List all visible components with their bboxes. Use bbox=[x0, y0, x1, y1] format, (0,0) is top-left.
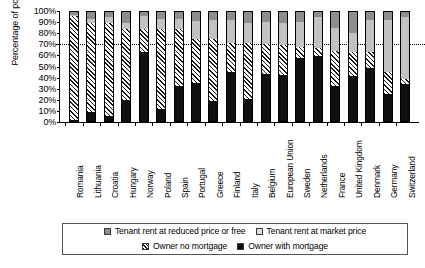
legend-item-label: Owner no mortgage bbox=[153, 242, 227, 251]
legend-item[interactable]: Tenant rent at reduced price or free bbox=[104, 227, 246, 236]
x-axis-tick-label: Hungary bbox=[129, 167, 137, 198]
bar-germany[interactable] bbox=[383, 11, 393, 122]
bar-segment bbox=[244, 43, 252, 100]
bar-segment bbox=[70, 16, 78, 120]
legend-item-label: Tenant rent at reduced price or free bbox=[115, 227, 246, 236]
bar-segment bbox=[227, 12, 235, 20]
bar-segment bbox=[296, 58, 304, 121]
bar-european-union[interactable] bbox=[278, 11, 288, 122]
bar-segment bbox=[331, 12, 339, 28]
bar-greece[interactable] bbox=[208, 11, 218, 122]
bar-segment bbox=[209, 39, 217, 101]
bar-segment bbox=[209, 20, 217, 40]
bar-segment bbox=[227, 43, 235, 72]
bar-united-kingdom[interactable] bbox=[348, 11, 358, 122]
bar-segment bbox=[87, 12, 95, 19]
bar-segment bbox=[331, 28, 339, 51]
bar-segment bbox=[279, 45, 287, 76]
y-axis-tick-label: 60% bbox=[39, 51, 56, 60]
bar-segment bbox=[105, 12, 113, 17]
bar-segment bbox=[105, 17, 113, 22]
chart-legend: Tenant rent at reduced price or freeTena… bbox=[62, 223, 408, 255]
x-axis-tick-label: Denmark bbox=[373, 165, 381, 198]
x-axis-tick-label: Lithuania bbox=[94, 165, 102, 198]
x-axis-tick-label: Spain bbox=[181, 177, 189, 198]
bar-segment bbox=[105, 23, 113, 116]
bar-segment bbox=[87, 19, 95, 23]
x-axis-tick-labels: RomaniaLithuaniaCroatiaHungaryNorwayPola… bbox=[59, 124, 418, 200]
bar-segment bbox=[244, 12, 252, 23]
bar-segment bbox=[157, 12, 165, 19]
legend-item-label: Tenant rent at market price bbox=[267, 227, 367, 236]
bar-segment bbox=[349, 33, 357, 53]
y-axis-tick-label: 40% bbox=[39, 74, 56, 83]
bar-denmark[interactable] bbox=[365, 11, 375, 122]
bar-segment bbox=[296, 22, 304, 47]
bar-segment bbox=[401, 17, 409, 78]
bar-segment bbox=[384, 72, 392, 94]
bar-segment bbox=[279, 75, 287, 121]
bar-segment bbox=[175, 29, 183, 86]
bar-segment bbox=[227, 72, 235, 121]
stacked-bar-chart: Percentage of population 0%10%20%30%40%5… bbox=[0, 0, 425, 268]
y-axis-tick-label: 70% bbox=[39, 40, 56, 49]
x-axis-tick-label: Germany bbox=[390, 165, 398, 198]
bar-segment bbox=[349, 76, 357, 121]
y-axis-tick-mark bbox=[57, 67, 60, 68]
y-axis-tick-label: 80% bbox=[39, 29, 56, 38]
bar-segment bbox=[105, 116, 113, 121]
bar-segment bbox=[366, 20, 374, 53]
bar-segment bbox=[349, 12, 357, 33]
bar-segment bbox=[192, 83, 200, 121]
y-axis-tick-label: 30% bbox=[39, 85, 56, 94]
bar-segment bbox=[140, 12, 148, 16]
legend-swatch-reduced-rent bbox=[104, 228, 111, 235]
bar-portugal[interactable] bbox=[191, 11, 201, 122]
y-axis-tick-mark bbox=[57, 122, 60, 123]
bar-finland[interactable] bbox=[226, 11, 236, 122]
x-axis-tick-label: European Union bbox=[286, 140, 294, 198]
bar-belgium[interactable] bbox=[261, 11, 271, 122]
y-axis-tick-mark bbox=[57, 100, 60, 101]
bar-segment bbox=[401, 84, 409, 121]
y-axis-tick-mark bbox=[57, 55, 60, 56]
legend-item[interactable]: Owner with mortgage bbox=[237, 242, 328, 251]
bar-segment bbox=[366, 12, 374, 20]
bar-segment bbox=[296, 12, 304, 22]
y-axis-tick-mark bbox=[57, 22, 60, 23]
bar-segment bbox=[384, 12, 392, 20]
bar-segment bbox=[157, 29, 165, 109]
bar-croatia[interactable] bbox=[104, 11, 114, 122]
bar-netherlands[interactable] bbox=[313, 11, 323, 122]
legend-item[interactable]: Tenant rent at market price bbox=[256, 227, 367, 236]
bar-norway[interactable] bbox=[139, 11, 149, 122]
bar-france[interactable] bbox=[330, 11, 340, 122]
bar-lithuania[interactable] bbox=[86, 11, 96, 122]
legend-row-2: Owner no mortgageOwner with mortgage bbox=[63, 239, 407, 254]
bar-spain[interactable] bbox=[174, 11, 184, 122]
x-axis-tick-label: Romania bbox=[76, 166, 84, 198]
bar-segment bbox=[401, 12, 409, 17]
y-axis-tick-mark bbox=[57, 89, 60, 90]
bar-segment bbox=[262, 22, 270, 44]
bar-segment bbox=[331, 86, 339, 121]
x-axis-tick-label: Greece bbox=[216, 171, 224, 198]
legend-item[interactable]: Owner no mortgage bbox=[142, 242, 227, 251]
x-axis-tick-label: France bbox=[338, 173, 346, 198]
bar-hungary[interactable] bbox=[121, 11, 131, 122]
bar-italy[interactable] bbox=[243, 11, 253, 122]
bar-segment bbox=[175, 86, 183, 121]
bar-romania[interactable] bbox=[69, 11, 79, 122]
y-axis-tick-label: 100% bbox=[34, 7, 56, 16]
bar-poland[interactable] bbox=[156, 11, 166, 122]
x-axis-tick-label: Netherlands bbox=[320, 154, 328, 198]
x-axis-tick-label: Portugal bbox=[198, 168, 206, 198]
plot-area bbox=[59, 11, 419, 123]
x-axis-tick-label: Poland bbox=[164, 173, 172, 198]
bar-switzerland[interactable] bbox=[400, 11, 410, 122]
y-axis-tick-mark bbox=[57, 33, 60, 34]
bar-sweden[interactable] bbox=[295, 11, 305, 122]
bar-segment bbox=[192, 39, 200, 83]
bar-segment bbox=[244, 99, 252, 121]
x-axis-tick-label: Croatia bbox=[111, 172, 119, 198]
